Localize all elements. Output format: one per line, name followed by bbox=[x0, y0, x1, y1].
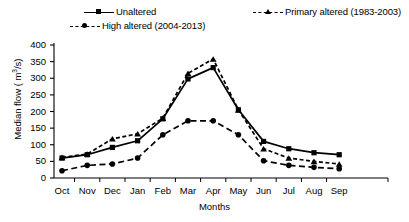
x-axis-tick-label: Sep bbox=[331, 185, 348, 196]
data-point-marker bbox=[211, 65, 216, 70]
data-point-marker bbox=[185, 118, 191, 124]
x-axis-tick-label: Oct bbox=[55, 185, 70, 196]
data-point-marker bbox=[59, 168, 65, 174]
data-point-marker bbox=[311, 150, 316, 155]
data-point-marker bbox=[286, 146, 291, 151]
x-axis-tick-label: Jan bbox=[130, 185, 145, 196]
data-point-marker bbox=[311, 165, 317, 171]
data-point-marker bbox=[285, 155, 292, 161]
x-axis-tick-label: May bbox=[229, 185, 247, 196]
data-point-marker bbox=[110, 145, 115, 150]
data-point-marker bbox=[160, 132, 166, 138]
y-axis-tick-label: 50 bbox=[35, 155, 46, 166]
data-point-marker bbox=[286, 163, 292, 169]
y-axis-tick-label: 0 bbox=[41, 172, 46, 183]
data-point-marker bbox=[135, 155, 141, 161]
data-point-marker bbox=[109, 136, 116, 142]
x-axis-tick-label: Jun bbox=[256, 185, 271, 196]
data-point-marker bbox=[135, 138, 140, 143]
x-axis-tick-label: Aug bbox=[306, 185, 323, 196]
data-point-marker bbox=[261, 158, 267, 164]
x-axis-tick-label: Mar bbox=[180, 185, 196, 196]
series-line-high bbox=[62, 121, 339, 171]
x-axis-tick-label: Jul bbox=[283, 185, 295, 196]
data-point-marker bbox=[84, 163, 90, 169]
plot-area: 050100150200250300350400 OctNovDecJanFeb… bbox=[0, 0, 409, 222]
data-point-marker bbox=[261, 139, 266, 144]
data-point-marker bbox=[110, 161, 116, 167]
data-point-marker bbox=[336, 166, 342, 172]
y-axis-tick-label: 350 bbox=[30, 55, 46, 66]
y-axis-tick-label: 150 bbox=[30, 122, 46, 133]
y-axis-tick-label: 300 bbox=[30, 72, 46, 83]
series-line-unaltered bbox=[62, 68, 339, 159]
y-axis-tick-label: 200 bbox=[30, 105, 46, 116]
chart-figure: Unaltered High altered (2004-2013) Prima… bbox=[0, 0, 409, 222]
y-axis-tick-label: 100 bbox=[30, 138, 46, 149]
data-point-marker bbox=[337, 152, 342, 157]
series-line-primary bbox=[62, 59, 339, 164]
y-axis-tick-label: 250 bbox=[30, 88, 46, 99]
x-axis-tick-label: Feb bbox=[155, 185, 171, 196]
data-point-marker bbox=[210, 56, 217, 62]
x-axis-tick-label: Nov bbox=[79, 185, 96, 196]
data-point-marker bbox=[236, 132, 242, 138]
x-axis-tick-label: Apr bbox=[206, 185, 221, 196]
x-axis-tick-label: Dec bbox=[104, 185, 121, 196]
data-point-marker bbox=[210, 118, 216, 124]
y-axis-tick-label: 400 bbox=[30, 39, 46, 50]
